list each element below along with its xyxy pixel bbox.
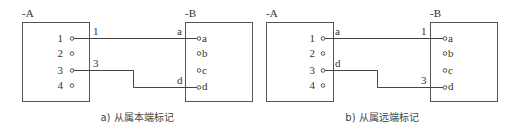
terminal-label: b <box>448 47 454 59</box>
wire-mark: a <box>335 25 340 37</box>
wire-mark: a <box>177 25 182 37</box>
terminal-label: b <box>202 47 208 59</box>
terminal-label: 2 <box>58 47 64 59</box>
terminal-label: 3 <box>310 64 316 76</box>
wire-mark: 1 <box>421 25 427 37</box>
terminal-circle <box>443 52 447 56</box>
terminal-label: 4 <box>310 79 316 91</box>
terminal-label: 1 <box>58 32 64 44</box>
device-b-box <box>431 23 498 102</box>
terminal-circle <box>70 69 74 73</box>
device-a-box <box>23 23 90 102</box>
panel-a: -A 1 2 3 4 -B a b c d 1 a 3 d a) 从属本端标记 <box>22 7 253 123</box>
wire-mark: d <box>335 57 341 69</box>
terminal-circle <box>197 37 201 41</box>
terminal-circle <box>443 37 447 41</box>
terminal-circle <box>70 37 74 41</box>
panel-a-caption: a) 从属本端标记 <box>100 111 173 123</box>
terminal-label: 4 <box>58 79 64 91</box>
terminal-label: a <box>202 32 207 44</box>
wire-mark: 1 <box>93 25 99 37</box>
terminal-label: d <box>202 80 208 92</box>
terminal-circle <box>197 52 201 56</box>
terminal-label: 2 <box>310 47 316 59</box>
terminal-circle <box>443 86 447 90</box>
wire-mark: 3 <box>93 57 99 69</box>
terminal-circle <box>321 52 325 56</box>
terminal-circle <box>197 86 201 90</box>
terminal-label: c <box>448 64 453 76</box>
panel-b: -A 1 2 3 4 -B a b c d a 1 d 3 b) 从属远端标记 <box>266 7 498 123</box>
terminal-circle <box>321 69 325 73</box>
wire-mark: d <box>177 74 183 86</box>
terminal-label: d <box>448 80 454 92</box>
device-b-box <box>186 23 253 102</box>
device-b-label: -B <box>185 7 196 19</box>
terminal-label: 1 <box>310 32 316 44</box>
terminal-label: a <box>448 32 453 44</box>
panel-b-caption: b) 从属远端标记 <box>345 111 418 123</box>
terminal-circle <box>321 84 325 88</box>
terminal-circle <box>197 69 201 73</box>
wiring-diagram: -A 1 2 3 4 -B a b c d 1 a 3 d a) 从属本端标记 … <box>0 0 515 131</box>
terminal-circle <box>70 52 74 56</box>
device-a-label: -A <box>266 7 278 19</box>
device-a-label: -A <box>22 7 34 19</box>
terminal-circle <box>70 84 74 88</box>
device-a-box <box>267 23 334 102</box>
device-b-label: -B <box>430 7 441 19</box>
terminal-circle <box>321 37 325 41</box>
terminal-label: c <box>202 64 207 76</box>
wire-mark: 3 <box>421 74 427 86</box>
terminal-circle <box>443 69 447 73</box>
terminal-label: 3 <box>58 64 64 76</box>
